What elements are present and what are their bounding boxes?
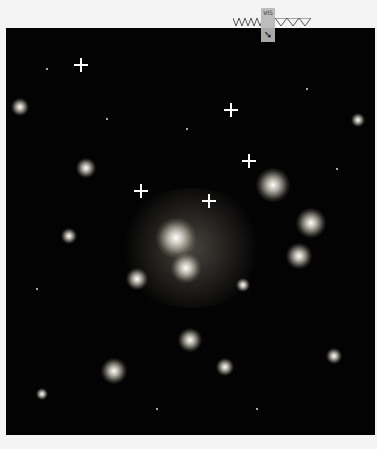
galaxy <box>156 218 196 258</box>
galaxy <box>351 113 365 127</box>
galaxy <box>76 158 96 178</box>
star <box>46 68 48 70</box>
star <box>202 194 216 208</box>
galaxy <box>171 253 201 283</box>
galaxy <box>326 348 342 364</box>
galaxy <box>11 98 29 116</box>
galaxy <box>256 168 290 202</box>
star <box>156 408 158 410</box>
galaxy <box>101 358 127 384</box>
galaxy-cluster-image <box>6 28 375 435</box>
galaxy <box>36 388 48 400</box>
star <box>306 88 308 90</box>
star <box>134 184 148 198</box>
star <box>74 58 88 72</box>
star <box>224 103 238 117</box>
galaxy <box>61 228 77 244</box>
pointer-arrow-icon: ➘ <box>261 28 275 42</box>
label-text: VIS <box>261 8 275 17</box>
star <box>256 408 258 410</box>
star <box>336 168 338 170</box>
galaxy <box>296 208 326 238</box>
galaxy <box>286 243 312 269</box>
galaxy <box>126 268 148 290</box>
galaxy <box>216 358 234 376</box>
galaxy <box>178 328 202 352</box>
star <box>242 154 256 168</box>
star <box>106 118 108 120</box>
star <box>36 288 38 290</box>
star <box>186 128 188 130</box>
galaxy <box>236 278 250 292</box>
